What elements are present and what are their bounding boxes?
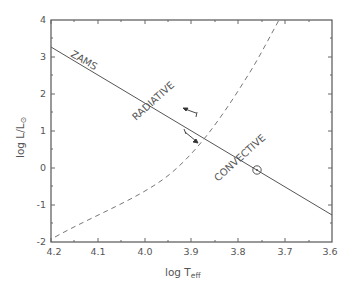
boundary-arrows xyxy=(183,108,198,143)
y-tick-label: 1 xyxy=(40,125,46,136)
y-tick-label: 0 xyxy=(40,162,46,173)
x-ticks xyxy=(51,20,309,242)
radiative-label: RADIATIVE xyxy=(130,79,176,122)
x-tick-label: 4.0 xyxy=(137,246,152,257)
x-axis-label: log Teff xyxy=(165,266,201,280)
y-tick-label: 3 xyxy=(40,51,46,62)
y-tick-labels: -2 -1 0 1 2 3 4 xyxy=(37,14,46,247)
convective-boundary-curve xyxy=(55,20,279,237)
y-tick-label: 2 xyxy=(40,88,46,99)
convective-label: CONVECTIVE xyxy=(212,132,267,183)
x-tick-label: 4.2 xyxy=(46,246,61,257)
y-axis-label: log L/L⊙ xyxy=(14,117,28,158)
hr-diagram-chart: 4.2 4.1 4.0 3.9 3.8 3.7 3.6 -2 -1 0 1 2 … xyxy=(0,0,356,290)
y-tick-label: -1 xyxy=(37,199,46,210)
sun-symbol-icon xyxy=(253,166,261,174)
y-tick-label: 4 xyxy=(40,14,46,25)
zams-line xyxy=(51,47,332,215)
x-tick-label: 3.8 xyxy=(230,246,245,257)
y-tick-label: -2 xyxy=(37,236,46,247)
x-tick-label: 3.9 xyxy=(183,246,198,257)
x-tick-label: 3.6 xyxy=(322,246,337,257)
x-tick-labels: 4.2 4.1 4.0 3.9 3.8 3.7 3.6 xyxy=(46,246,337,257)
x-tick-label: 3.7 xyxy=(277,246,292,257)
zams-label: ZAMS xyxy=(69,48,99,72)
x-tick-label: 4.1 xyxy=(90,246,105,257)
